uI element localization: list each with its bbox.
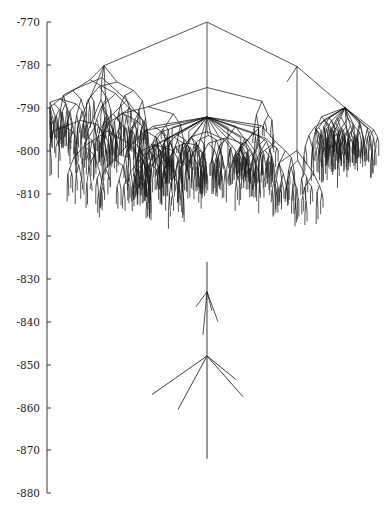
tree-branch <box>68 168 70 174</box>
tree-branch <box>272 120 273 135</box>
tree-branch <box>255 137 256 144</box>
tree-branch <box>97 178 98 192</box>
axis-tick-label: -830 <box>16 273 40 285</box>
tree-branch <box>306 201 307 211</box>
tree-branch <box>216 140 220 151</box>
tree-branch <box>259 129 260 145</box>
tree-branch <box>156 131 161 136</box>
tree-branch <box>117 129 119 134</box>
tree-branch <box>54 104 59 109</box>
tree-branch <box>105 158 106 166</box>
tree-branch <box>87 119 92 132</box>
tree-branch <box>175 140 177 146</box>
tree-branch <box>275 142 285 151</box>
tree-branch <box>305 135 309 146</box>
tree-branch <box>317 192 318 210</box>
tree-branch <box>90 105 91 112</box>
tree-branch <box>82 179 83 184</box>
axis-tick-label: -770 <box>16 16 40 28</box>
tree-branch <box>181 125 185 143</box>
tree-branch <box>298 198 299 202</box>
tree-branch <box>196 292 207 307</box>
tree-branch <box>219 139 226 145</box>
tree-branch <box>254 115 256 129</box>
tree-branch <box>80 66 104 121</box>
tree-branch <box>344 127 347 130</box>
tree-branch <box>376 137 377 143</box>
tree-branch <box>70 104 76 111</box>
tree-branch <box>117 82 134 91</box>
tree-branch <box>287 186 288 199</box>
tree-branch <box>77 99 81 115</box>
tree-branch <box>169 195 170 211</box>
tree-branch <box>313 173 319 186</box>
tree-branch <box>126 128 128 139</box>
tree-branch <box>276 179 278 187</box>
tree-branch <box>373 138 375 149</box>
tree-branch <box>162 176 163 183</box>
tree-branch <box>76 174 77 182</box>
tree-branch <box>134 174 135 184</box>
tree-branch <box>104 66 117 82</box>
tree-branch <box>107 143 108 149</box>
tree-branch <box>296 203 297 214</box>
tree-branch <box>283 173 286 185</box>
tree-branch <box>268 115 272 120</box>
tree-branch <box>86 151 87 154</box>
tree-branch <box>207 132 224 140</box>
tree-branch <box>262 101 268 115</box>
tree-branch <box>122 126 126 128</box>
axis-tick-label: -790 <box>16 102 40 114</box>
tree-branch <box>264 154 266 167</box>
tree-branch <box>308 182 312 186</box>
axis-tick-label: -880 <box>16 487 40 499</box>
tree-branch <box>296 188 297 203</box>
tree-branch <box>57 115 58 122</box>
tree-branch <box>203 143 209 154</box>
tree-branch <box>268 158 269 173</box>
tree-branch <box>263 122 264 126</box>
tree-branch <box>131 171 133 184</box>
tree-branch <box>91 86 99 96</box>
y-axis: -770-780-790-800-810-820-830-840-850-860… <box>16 16 51 499</box>
tree-branch <box>257 156 258 163</box>
tree-branch <box>119 180 121 190</box>
tree-branch <box>128 184 129 186</box>
axis-tick-label: -870 <box>16 444 40 456</box>
axis-tick-label: -780 <box>16 59 40 71</box>
axis-tick-label: -820 <box>16 230 40 242</box>
tree-branch <box>316 117 322 129</box>
tree-branch <box>125 156 126 166</box>
tree-branch <box>272 160 273 169</box>
tree-branch <box>232 146 235 151</box>
tree-branch <box>279 150 297 163</box>
tree-branch <box>309 127 314 135</box>
tree-branch <box>282 182 284 190</box>
tree-branch <box>252 168 253 174</box>
tree-branch <box>265 122 267 128</box>
tree-branch <box>75 115 77 126</box>
tree-branch <box>70 168 72 173</box>
tree-branch <box>117 187 118 195</box>
tree-branch <box>80 120 96 124</box>
tree-branch <box>59 148 60 154</box>
tree-branch <box>174 151 178 160</box>
tree-branch <box>78 123 79 129</box>
tree-branch <box>208 143 214 149</box>
tree-branch <box>148 88 207 107</box>
tree-branch <box>302 178 303 185</box>
tree-branch <box>274 164 275 172</box>
tree-branch <box>317 186 319 192</box>
axis-tick-label: -860 <box>16 402 40 414</box>
tree-branch <box>277 148 278 151</box>
tree-branch <box>56 142 58 148</box>
tree-branch <box>367 138 368 146</box>
tree-branch <box>91 96 94 101</box>
tree-branch <box>175 182 176 187</box>
tree-branch <box>62 104 65 112</box>
tree-branch <box>375 149 376 155</box>
tree-branch <box>253 181 254 191</box>
tree-branch <box>225 170 226 184</box>
tree-branch <box>170 143 173 148</box>
tree-branch <box>192 167 193 184</box>
